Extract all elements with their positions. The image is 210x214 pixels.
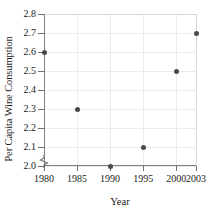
x-tick-mark: [77, 166, 78, 171]
x-tick-mark: [176, 166, 177, 171]
y-tick-mark: [38, 71, 44, 72]
y-tick-mark: [38, 147, 44, 148]
y-tick-label: 2.7: [4, 28, 36, 38]
y-tick-label: 2.8: [4, 9, 36, 19]
x-tick-label: 2003: [176, 173, 210, 184]
data-point: [75, 107, 80, 112]
axis-break-icon: [39, 155, 49, 168]
x-tick-mark: [143, 166, 144, 171]
data-point: [42, 50, 47, 55]
y-tick-mark: [38, 128, 44, 129]
x-axis-title: Year: [44, 196, 196, 208]
data-point: [174, 69, 179, 74]
y-tick-label: 2.1: [4, 142, 36, 152]
y-tick-mark: [38, 109, 44, 110]
gridline-horizontal: [44, 166, 196, 167]
y-tick-label: 2.4: [4, 85, 36, 95]
scatter-plot: Per Capita Wine Consumption 2.02.12.22.3…: [0, 0, 210, 214]
y-tick-label: 2.6: [4, 47, 36, 57]
data-point: [141, 145, 146, 150]
data-point: [108, 164, 113, 169]
y-tick-mark: [38, 90, 44, 91]
y-tick-label: 2.5: [4, 66, 36, 76]
y-tick-label: 2.3: [4, 104, 36, 114]
plot-area: [44, 14, 196, 166]
y-tick-label: 2.0: [4, 161, 36, 171]
data-point: [194, 31, 199, 36]
plot-frame-right: [196, 14, 197, 166]
x-tick-mark: [196, 166, 197, 171]
y-tick-mark: [38, 14, 44, 15]
y-tick-label: 2.2: [4, 123, 36, 133]
y-tick-mark: [38, 33, 44, 34]
